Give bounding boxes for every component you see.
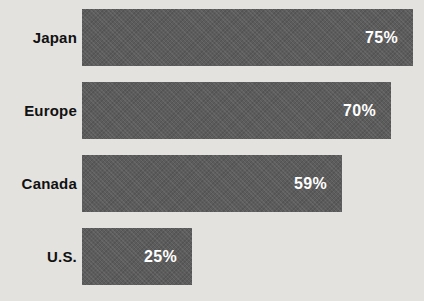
category-label: U.S. xyxy=(0,228,82,285)
bar-row: U.S. 25% xyxy=(0,228,424,285)
category-label: Canada xyxy=(0,155,82,212)
bar: 75% xyxy=(82,9,413,66)
bar-row: Canada 59% xyxy=(0,155,424,212)
category-label: Europe xyxy=(0,82,82,139)
value-label: 59% xyxy=(294,175,327,193)
bar: 25% xyxy=(82,228,192,285)
bar-row: Europe 70% xyxy=(0,82,424,139)
bar: 70% xyxy=(82,82,391,139)
value-label: 75% xyxy=(365,29,398,47)
bar: 59% xyxy=(82,155,342,212)
value-label: 25% xyxy=(144,248,177,266)
horizontal-bar-chart: Japan 75% Europe 70% Canada 59% U.S. 25% xyxy=(0,0,424,301)
bar-row: Japan 75% xyxy=(0,9,424,66)
value-label: 70% xyxy=(343,102,376,120)
category-label: Japan xyxy=(0,9,82,66)
